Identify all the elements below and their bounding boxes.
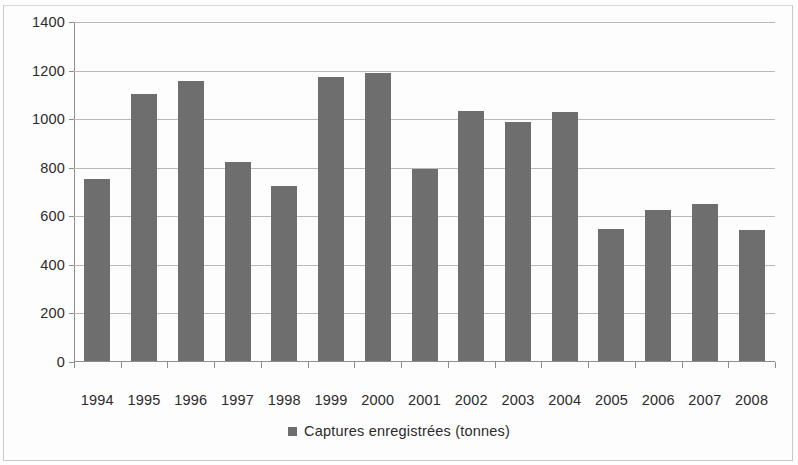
x-axis-tick (635, 362, 636, 368)
x-axis-tick (541, 362, 542, 368)
y-axis-tick (69, 313, 74, 314)
x-axis-tick (308, 362, 309, 368)
gridline (74, 71, 775, 72)
bar (505, 122, 531, 361)
x-axis-tick-label: 2002 (455, 392, 488, 408)
x-axis-tick (448, 362, 449, 368)
y-axis-tick-label: 200 (40, 305, 65, 321)
x-axis-tick-label: 2004 (548, 392, 581, 408)
x-axis-tick-label: 1997 (221, 392, 254, 408)
bar (692, 204, 718, 361)
bar (131, 94, 157, 361)
bar (598, 229, 624, 361)
x-axis-tick (121, 362, 122, 368)
x-axis-tick-label: 2006 (642, 392, 675, 408)
chart-legend: Captures enregistrées (tonnes) (0, 423, 798, 439)
y-axis-tick (69, 71, 74, 72)
x-axis-tick-label: 1995 (128, 392, 161, 408)
x-axis-tick-label: 1994 (81, 392, 114, 408)
x-axis-tick-label: 2001 (408, 392, 441, 408)
y-axis-tick-label: 1200 (32, 63, 65, 79)
x-axis-tick (495, 362, 496, 368)
y-axis-tick (69, 216, 74, 217)
y-axis-tick-label: 1400 (32, 14, 65, 30)
bar (271, 186, 297, 361)
y-axis-tick-label: 400 (40, 257, 65, 273)
gridline (74, 22, 775, 23)
x-axis-tick (588, 362, 589, 368)
bar (645, 210, 671, 361)
x-axis-tick-label: 1998 (268, 392, 301, 408)
x-axis-tick-label: 2003 (501, 392, 534, 408)
bar (552, 112, 578, 361)
x-axis-tick (775, 362, 776, 368)
x-axis-tick-label: 1999 (315, 392, 348, 408)
x-axis-tick-label: 2005 (595, 392, 628, 408)
x-axis-tick (682, 362, 683, 368)
legend-label: Captures enregistrées (tonnes) (304, 423, 510, 439)
y-axis-tick-label: 1000 (32, 111, 65, 127)
x-axis-tick-label: 2000 (361, 392, 394, 408)
legend-swatch-icon (288, 427, 297, 436)
x-axis-tick (261, 362, 262, 368)
x-axis-tick (214, 362, 215, 368)
x-axis-tick-label: 1996 (174, 392, 207, 408)
bar (318, 77, 344, 361)
x-axis-tick (728, 362, 729, 368)
bar (225, 162, 251, 361)
x-axis-line (74, 361, 775, 362)
y-axis-tick (69, 22, 74, 23)
bar (739, 230, 765, 361)
y-axis-tick-label: 600 (40, 208, 65, 224)
bar-chart-figure: 0200400600800100012001400 19941995199619… (0, 0, 798, 465)
y-axis-line (74, 22, 75, 363)
y-axis-tick (69, 119, 74, 120)
bar (178, 81, 204, 362)
x-axis-tick-label: 2008 (735, 392, 768, 408)
plot-area: 0200400600800100012001400 19941995199619… (74, 22, 775, 362)
x-axis-tick (354, 362, 355, 368)
bar (365, 73, 391, 361)
y-axis-tick-label: 0 (57, 354, 65, 370)
x-axis-tick-label: 2007 (688, 392, 721, 408)
y-axis-tick (69, 265, 74, 266)
y-axis-tick (69, 168, 74, 169)
y-axis-tick-label: 800 (40, 160, 65, 176)
bar (458, 111, 484, 361)
bar (412, 169, 438, 361)
x-axis-tick (167, 362, 168, 368)
x-axis-tick (74, 362, 75, 368)
x-axis-tick (401, 362, 402, 368)
bar (84, 179, 110, 361)
